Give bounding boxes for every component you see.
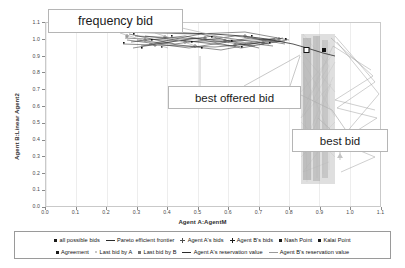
y-tickmark-1-0 (42, 39, 45, 40)
legend-item-last-bid-by-b: Last bid by B (138, 249, 176, 255)
agent-bids-cluster (121, 32, 289, 50)
legend-item-last-bid-by-a: Last bid by A (95, 249, 132, 255)
x-tickmark-1-0 (350, 207, 351, 210)
y-tickmark-0-9 (42, 56, 45, 57)
square-marker-icon (279, 239, 282, 242)
legend-label-nash-point: Nash Point (284, 237, 312, 243)
square-marker-icon (54, 239, 57, 242)
legend-item-agent-a-bids: Agent A's bids (180, 237, 223, 243)
y-tick-0-2: 0.2 (22, 170, 40, 176)
star-marker-icon (230, 238, 235, 243)
legend-item-pareto-frontier: Pareto efficient frontier (106, 237, 175, 243)
x-tickmark-0-0 (45, 207, 46, 210)
legend-label-all-possible-bids: all possible bids (60, 237, 100, 243)
x-tickmark-0-8 (289, 207, 290, 210)
y-tick-0-5: 0.5 (22, 119, 40, 125)
legend-item-agent-a-reservation: Agent A's reservation value (182, 249, 262, 255)
legend-item-kalai-point: Kalai Point (318, 237, 350, 243)
square-marker-icon (138, 251, 141, 254)
y-tick-0-1: 0.1 (22, 186, 40, 192)
y-tickmark-0-2 (42, 173, 45, 174)
x-tickmark-0-4 (167, 207, 168, 210)
legend-label-agent-b-reservation: Agent B's reservation value (280, 249, 349, 255)
y-axis-title: Agent B:Linear Agent2 (14, 93, 20, 160)
x-tickmark-1-1 (381, 207, 382, 210)
line-marker-icon (106, 240, 115, 241)
y-tickmark-0-3 (42, 156, 45, 157)
x-tickmark-0-5 (198, 207, 199, 210)
legend-item-agent-b-bids: Agent B's bids (230, 237, 273, 243)
x-tickmark-0-1 (76, 207, 77, 210)
x-axis-title: Agent A:AgentM (0, 219, 405, 225)
legend-label-agent-b-bids: Agent B's bids (237, 237, 273, 243)
x-tickmark-0-9 (320, 207, 321, 210)
legend-label-agent-a-bids: Agent A's bids (188, 237, 224, 243)
legend-label-agent-a-reservation: Agent A's reservation value (194, 249, 263, 255)
square-marker-icon (318, 239, 321, 242)
all-possible-bids-points (301, 34, 335, 184)
y-tick-0-4: 0.4 (22, 136, 40, 142)
legend-item-all-possible-bids: all possible bids (54, 237, 100, 243)
line-marker-icon (269, 252, 278, 253)
legend-row-2: Agreement Last bid by A Last bid by B Ag… (19, 246, 386, 258)
annotation-frequency-bid: frequency bid (48, 9, 183, 33)
chart-screenshot: 1.1 1.0 0.9 0.8 0.7 0.6 0.5 0.4 0.3 0.2 … (0, 0, 405, 268)
x-tickmark-0-2 (106, 207, 107, 210)
chart-data-layer (45, 22, 381, 207)
y-tickmark-1-1 (42, 22, 45, 23)
legend-label-kalai-point: Kalai Point (323, 237, 350, 243)
y-tick-0-8: 0.8 (22, 69, 40, 75)
annotation-best-bid: best bid (292, 129, 388, 152)
x-tickmark-0-3 (137, 207, 138, 210)
legend-row-1: all possible bids Pareto efficient front… (19, 234, 386, 246)
plus-marker-icon (180, 238, 185, 243)
y-tick-0-3: 0.3 (22, 153, 40, 159)
y-tickmark-0-8 (42, 72, 45, 73)
x-tickmark-0-7 (259, 207, 260, 210)
legend-label-agreement: Agreement (61, 249, 89, 255)
y-tickmark-0-1 (42, 190, 45, 191)
y-tick-0-6: 0.6 (22, 103, 40, 109)
y-tick-0-9: 0.9 (22, 53, 40, 59)
chart-legend: all possible bids Pareto efficient front… (14, 231, 391, 259)
y-tickmark-0-5 (42, 123, 45, 124)
legend-item-agent-b-reservation: Agent B's reservation value (269, 249, 349, 255)
y-tickmark-0-6 (42, 106, 45, 107)
legend-label-pareto-frontier: Pareto efficient frontier (117, 237, 174, 243)
dot-marker-icon (95, 251, 98, 254)
legend-label-last-bid-by-a: Last bid by A (100, 249, 133, 255)
legend-item-agreement: Agreement (56, 249, 89, 255)
square-marker-icon (56, 251, 59, 254)
y-tickmark-0-7 (42, 89, 45, 90)
y-tickmark-0-4 (42, 140, 45, 141)
y-tick-1-1: 1.1 (22, 19, 40, 25)
y-tick-0-7: 0.7 (22, 86, 40, 92)
line-marker-icon (182, 252, 191, 253)
kalai-point-marker (322, 48, 326, 52)
legend-label-last-bid-by-b: Last bid by B (143, 249, 176, 255)
nash-point-marker (304, 48, 309, 53)
x-tickmark-0-6 (228, 207, 229, 210)
y-tick-1-0: 1.0 (22, 36, 40, 42)
legend-item-nash-point: Nash Point (279, 237, 312, 243)
annotation-best-offered-bid: best offered bid (168, 86, 301, 109)
